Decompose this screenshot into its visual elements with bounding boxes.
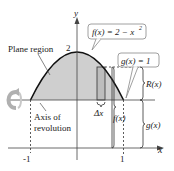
- y-axis-label: y: [73, 8, 78, 18]
- axis-of-revolution-label-line2: revolution: [34, 123, 71, 133]
- R-brace-label: R(x): [145, 79, 162, 89]
- rotation-arrow-icon: [9, 88, 22, 108]
- g-callout-text: g(x) = 1: [121, 56, 151, 66]
- R-brace: [140, 67, 145, 100]
- g-brace-label: g(x): [146, 120, 161, 130]
- x-axis-label: x: [157, 144, 163, 155]
- f-callout-pointer: [92, 39, 101, 50]
- representative-rectangle: [97, 67, 105, 100]
- axis-label-pointer: [40, 103, 46, 111]
- revolution-diagram: x y 2 -1 1 Plane region Axis of revoluti…: [0, 0, 174, 171]
- plane-region-pointer: [38, 54, 50, 75]
- axis-of-revolution-label-line1: Axis of: [34, 112, 61, 122]
- delta-x-brace: [97, 102, 105, 107]
- x-tick-1: 1: [120, 154, 125, 164]
- delta-x-label: Δx: [93, 108, 103, 118]
- f-callout-text: f(x) = 2 − x: [92, 27, 134, 37]
- g-brace: [140, 100, 145, 148]
- y-axis-arrow-icon: [75, 17, 80, 24]
- f-callout-exponent: 2: [139, 25, 142, 31]
- g-callout-pointer: [126, 67, 138, 98]
- plane-region-label: Plane region: [8, 44, 54, 54]
- x-tick-neg1: -1: [23, 154, 31, 164]
- y-tick-2: 2: [66, 43, 71, 53]
- f-brace-label: f(x): [113, 113, 126, 123]
